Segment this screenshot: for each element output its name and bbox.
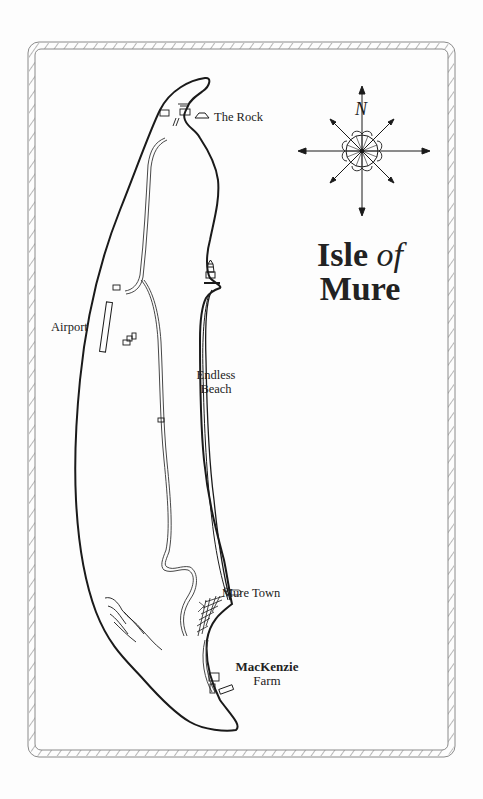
label-mackenzie-farm-line2: Farm	[234, 674, 300, 688]
compass-north-label: N	[354, 99, 368, 119]
label-mackenzie-farm-line1: MacKenzie	[234, 660, 300, 674]
beach-shoreline	[206, 290, 230, 600]
label-the-rock: The Rock	[214, 110, 263, 124]
label-endless-beach: Endless Beach	[192, 368, 240, 396]
title-of: of	[377, 236, 403, 273]
the-rock-icon	[195, 113, 209, 118]
airport-terminal	[113, 285, 120, 290]
title-isle: Isle	[317, 236, 368, 273]
label-mure-town: Mure Town	[222, 586, 280, 600]
rope-border	[28, 42, 455, 757]
hills	[105, 598, 162, 650]
airport-runway	[100, 302, 113, 352]
farm-buildings	[209, 673, 234, 694]
label-airport: Airport	[51, 320, 88, 334]
title-mure: Mure	[300, 272, 420, 306]
island-coastline	[75, 78, 237, 731]
map-title: Isle of Mure	[300, 238, 420, 306]
label-endless-beach-line1: Endless	[192, 368, 240, 382]
label-endless-beach-line2: Beach	[192, 382, 240, 396]
label-mackenzie-farm: MacKenzie Farm	[234, 660, 300, 688]
airport-buildings	[123, 333, 136, 345]
